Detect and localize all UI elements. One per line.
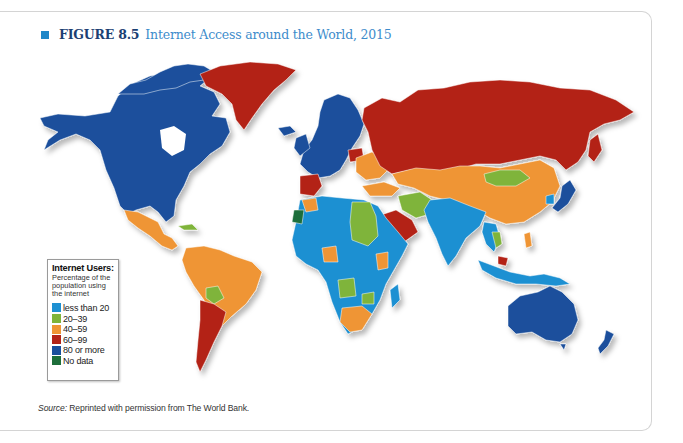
region-philippines: [524, 232, 532, 248]
legend-label: No data: [63, 356, 93, 366]
legend-swatch: [52, 356, 61, 365]
region-iceland: [278, 126, 296, 136]
region-western-sahara: [292, 210, 304, 224]
figure-header: FIGURE 8.5 Internet Access around the Wo…: [41, 27, 392, 42]
region-angola: [338, 278, 356, 298]
region-madagascar: [390, 284, 400, 308]
source-caption: Source: Reprinted with permission from T…: [38, 403, 249, 413]
source-prefix: Source:: [38, 403, 67, 413]
region-indonesia: [478, 260, 570, 286]
region-nigeria: [322, 246, 338, 262]
region-korea: [546, 194, 554, 204]
region-europe-west: [300, 94, 364, 178]
legend-swatch: [52, 314, 61, 323]
legend-item-80-or-more: 80 or more: [52, 345, 115, 356]
figure-label: FIGURE 8.5: [59, 27, 139, 42]
region-australia: [508, 286, 578, 342]
region-turkey: [362, 182, 400, 196]
legend-swatch: [52, 325, 61, 334]
legend-label: less than 20: [63, 303, 109, 313]
legend-item-60-99: 60–99: [52, 334, 115, 345]
region-zimbabwe: [362, 292, 374, 304]
region-tasmania: [560, 344, 566, 350]
legend-title: Internet Users:: [52, 263, 115, 273]
figure-title: Internet Access around the World, 2015: [145, 27, 391, 42]
region-kamchatka: [588, 134, 602, 162]
figure-marker-icon: [41, 31, 49, 39]
legend-subtitle: Percentage of the population using the i…: [52, 274, 115, 299]
region-new-zealand: [598, 330, 614, 354]
legend-label: 80 or more: [63, 345, 105, 355]
legend-swatch: [52, 303, 61, 312]
map-legend: Internet Users: Percentage of the popula…: [47, 259, 119, 381]
legend-label: 60–99: [63, 335, 87, 345]
region-kenya: [376, 252, 388, 270]
region-malaysia: [498, 256, 508, 266]
legend-item-40-59: 40–59: [52, 324, 115, 335]
legend-label: 20–39: [63, 314, 87, 324]
legend-item-20-39: 20–39: [52, 313, 115, 324]
source-text: Reprinted with permission from The World…: [67, 403, 249, 413]
region-argentina-chile: [196, 300, 226, 372]
legend-item-no-data: No data: [52, 356, 115, 367]
legend-label: 40–59: [63, 324, 87, 334]
legend-swatch: [52, 346, 61, 355]
legend-item-less-than-20: less than 20: [52, 303, 115, 314]
region-caribbean: [178, 224, 198, 230]
legend-swatch: [52, 335, 61, 344]
region-iberia: [300, 174, 322, 196]
